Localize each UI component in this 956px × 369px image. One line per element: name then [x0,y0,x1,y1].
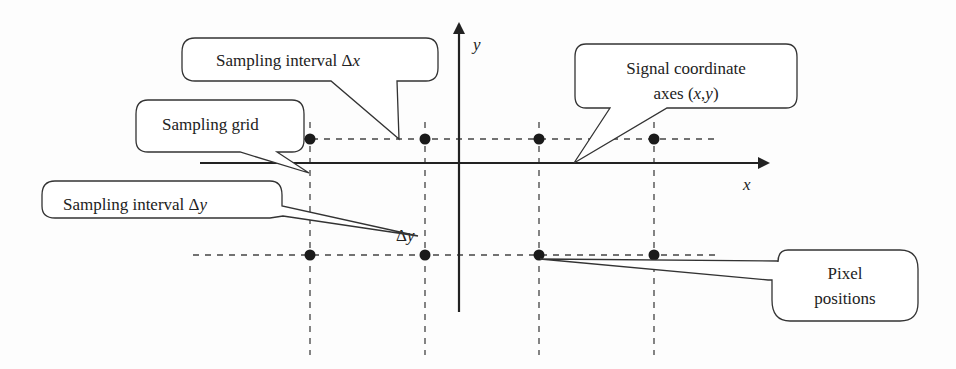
pixel-dot [649,134,660,145]
callout-sampling-interval-x-text: Sampling interval Δx [216,51,361,70]
pixel-dot [420,250,431,261]
x-axis-label: x [742,175,751,194]
pixel-dot [420,134,431,145]
callout-pixel-positions-line1: Pixel [828,264,863,283]
sampling-diagram: x y Δy Sampling interval Δx Sampling gri… [0,0,956,369]
y-axis-label: y [471,35,481,54]
pixel-dot [305,134,316,145]
callout-sampling-grid-text: Sampling grid [162,115,259,134]
callout-sampling-interval-y-text: Sampling interval Δy [63,195,208,214]
pixel-dot [305,250,316,261]
callout-pixel-positions-line2: positions [814,289,875,308]
callout-signal-axes-line2: axes (x,y) [653,84,718,103]
pixel-dot [534,134,545,145]
pixel-dots [305,134,660,261]
pixel-dot [649,250,660,261]
callout-pixel-positions [540,250,918,321]
callout-signal-axes-line1: Signal coordinate [626,59,745,78]
